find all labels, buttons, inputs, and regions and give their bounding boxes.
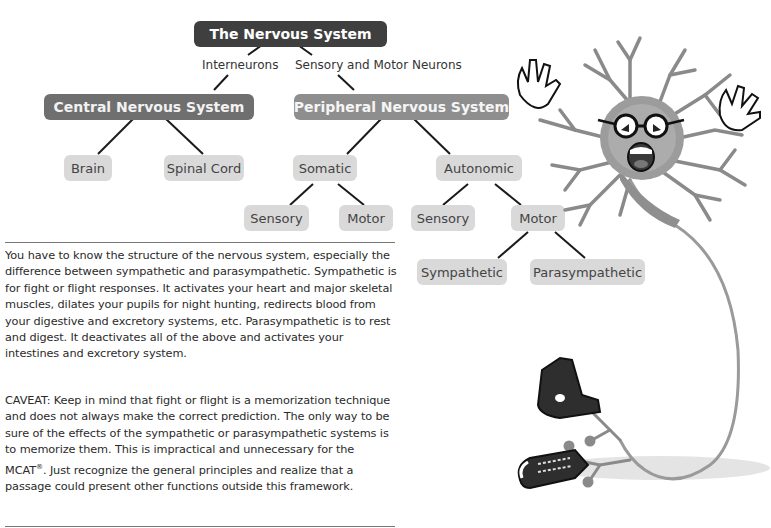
edge-somatic-sensory — [290, 184, 313, 205]
caveat-text-end: . Just recognize the general principles … — [5, 463, 353, 492]
edge-label-interneurons: Interneurons — [202, 58, 278, 72]
node-somatic-sensory: Sensory — [244, 205, 309, 231]
node-label: Central Nervous System — [54, 99, 245, 115]
edge-somatic-motor — [338, 184, 364, 205]
node-label: Motor — [347, 211, 385, 226]
node-label: Somatic — [299, 161, 352, 176]
node-brain: Brain — [64, 155, 112, 181]
node-label: Sensory — [417, 211, 469, 226]
edge-pns-somatic — [347, 119, 381, 154]
node-central-nervous-system: Central Nervous System — [44, 94, 254, 120]
node-label: Sensory — [250, 211, 302, 226]
edge-label-sensory-motor-neurons: Sensory and Motor Neurons — [295, 58, 462, 72]
node-peripheral-nervous-system: Peripheral Nervous System — [294, 94, 509, 120]
edge-cns-brain — [98, 119, 133, 154]
node-somatic: Somatic — [293, 155, 357, 181]
node-autonomic-sensory: Sensory — [411, 205, 475, 231]
edge-sensorymotor-pns — [338, 75, 354, 90]
edge-cns-spinalcord — [166, 119, 203, 154]
node-somatic-motor: Motor — [339, 205, 393, 231]
axon — [620, 180, 738, 479]
node-nervous-system: The Nervous System — [194, 21, 387, 47]
caveat-paragraph: CAVEAT: Keep in mind that fight or fligh… — [5, 393, 397, 495]
edge-interneurons-cns — [214, 75, 228, 90]
node-label: Peripheral Nervous System — [294, 99, 509, 115]
edge-pns-autonomic — [414, 119, 450, 154]
divider-top — [5, 242, 395, 243]
edge-autonomic-sensory — [443, 184, 468, 205]
node-label: Brain — [71, 161, 105, 176]
node-label: The Nervous System — [209, 26, 371, 42]
neuron-cartoon-icon — [480, 20, 771, 520]
explanation-paragraph: You have to know the structure of the ne… — [5, 248, 397, 363]
node-label: Spinal Cord — [167, 161, 241, 176]
divider-bottom — [5, 526, 395, 527]
registered-mark: ® — [36, 463, 43, 471]
node-spinal-cord: Spinal Cord — [164, 155, 244, 181]
